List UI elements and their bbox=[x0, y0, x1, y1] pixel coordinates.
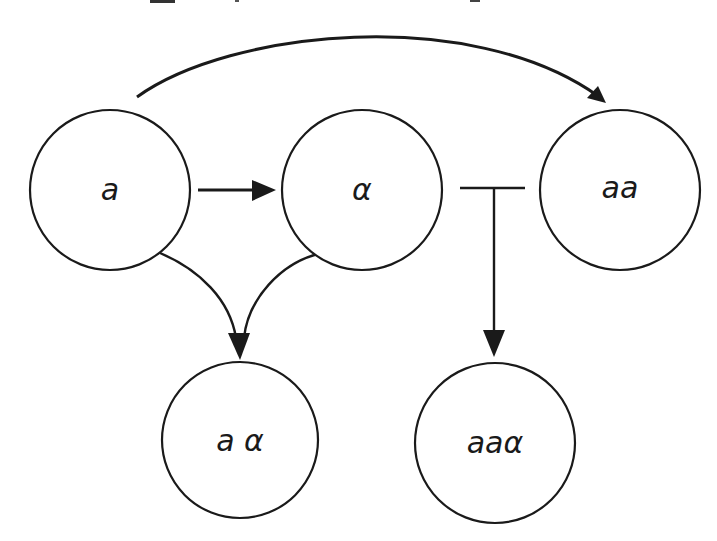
diagram-canvas: a α aa a α aaα bbox=[0, 0, 717, 541]
node-aa: aa bbox=[540, 110, 700, 270]
edge-inhibition-to-aa-alpha bbox=[460, 188, 525, 357]
arrowhead-icon bbox=[587, 86, 606, 103]
node-aa-label: aa bbox=[602, 170, 639, 205]
arc-arrow-line bbox=[137, 37, 598, 97]
curve-from-alpha bbox=[244, 253, 322, 338]
node-a-alpha-label: a α bbox=[216, 423, 264, 458]
node-aa-alpha-label: aaα bbox=[467, 425, 524, 460]
edge-a-and-alpha-to-a-alpha bbox=[160, 253, 322, 360]
arrowhead-icon bbox=[252, 180, 276, 201]
node-a-alpha: a α bbox=[162, 362, 318, 518]
edge-a-to-alpha bbox=[198, 180, 276, 201]
edge-a-to-aa bbox=[137, 37, 606, 103]
arrowhead-icon bbox=[483, 330, 505, 357]
node-alpha-label: α bbox=[352, 172, 372, 207]
node-alpha: α bbox=[282, 110, 442, 270]
curve-from-a bbox=[160, 253, 236, 338]
node-a: a bbox=[30, 110, 190, 270]
arrowhead-icon bbox=[228, 333, 250, 360]
node-a-label: a bbox=[101, 172, 119, 207]
cropped-text-fragment bbox=[150, 0, 480, 3]
node-aa-alpha: aaα bbox=[415, 363, 575, 523]
